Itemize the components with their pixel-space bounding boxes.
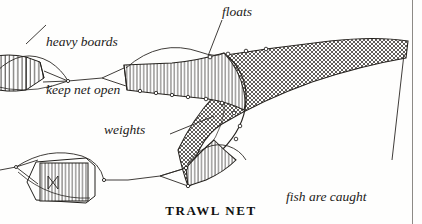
leader-fish (392, 54, 404, 160)
label-heavy-boards-line2: keep net open (46, 82, 120, 98)
figure-title: TRAWL NET (0, 203, 422, 219)
label-heavy-boards-line1: heavy boards (46, 34, 120, 50)
label-heavy-boards: heavy boards keep net open (46, 2, 120, 129)
label-weights: weights (104, 122, 145, 138)
illustration-canvas: heavy boards keep net open floats weight… (0, 0, 422, 224)
leader-boards (26, 25, 46, 44)
lower-board (15, 153, 106, 203)
label-floats: floats (222, 4, 252, 20)
leader-floats (208, 20, 222, 56)
